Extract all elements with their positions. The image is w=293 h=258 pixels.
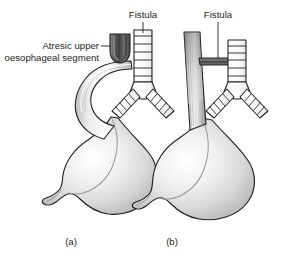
left-bronchus-a: [112, 89, 140, 118]
airway-b: [206, 40, 268, 118]
atresic-segment-label-line1: Atresic upper: [42, 40, 99, 51]
atresic-upper-oesophageal-pouch: [110, 34, 130, 63]
right-bronchus-a: [146, 89, 174, 118]
fistula-label-b: Fistula: [204, 9, 233, 20]
caption-a: (a): [65, 236, 77, 247]
atresic-segment-label-line2: oesophageal segment: [5, 52, 100, 63]
left-bronchus-b: [206, 89, 234, 118]
right-bronchus-b: [240, 89, 268, 118]
panel-b: [132, 22, 268, 220]
continuous-oesophagus-b: [184, 32, 206, 130]
oesophageal-atresia-figure: Fistula Fistula Atresic upper oesophagea…: [0, 0, 293, 258]
horizontal-fistula-b: [199, 58, 229, 65]
fistula-label-a: Fistula: [129, 9, 158, 20]
figure-canvas: Fistula Fistula Atresic upper oesophagea…: [0, 0, 293, 258]
caption-b: (b): [166, 236, 178, 247]
